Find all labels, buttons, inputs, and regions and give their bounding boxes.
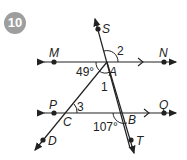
- angle-49-arc: [96, 62, 100, 71]
- label-n: N: [159, 46, 168, 60]
- label-p: P: [49, 98, 57, 112]
- point-d: [40, 137, 45, 142]
- angle-label-2: 2: [117, 44, 124, 58]
- label-m: M: [49, 46, 59, 60]
- angle-label-107: 107°: [93, 120, 118, 134]
- label-s: S: [102, 22, 110, 36]
- label-d: D: [48, 134, 57, 148]
- line-ad: [35, 62, 107, 150]
- label-q: Q: [159, 98, 168, 112]
- label-c: C: [63, 115, 72, 129]
- angle-label-1: 1: [101, 80, 108, 94]
- label-a: A: [108, 65, 117, 79]
- angle-label-3: 3: [77, 100, 84, 114]
- label-t: T: [136, 134, 145, 148]
- label-b: B: [128, 113, 136, 127]
- point-n: [161, 59, 166, 64]
- angle-label-49: 49°: [76, 65, 94, 79]
- point-m: [51, 59, 56, 64]
- geometry-diagram: M N P Q S A B C D T 2 49° 1 3 107°: [0, 0, 187, 160]
- point-t: [128, 137, 133, 142]
- point-s: [95, 26, 100, 31]
